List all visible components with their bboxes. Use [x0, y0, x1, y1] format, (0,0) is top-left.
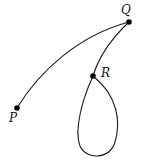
label-r: R [101, 67, 110, 79]
point-q [126, 19, 132, 25]
curve-p-to-q [17, 22, 129, 108]
diagram-svg [0, 0, 142, 163]
label-q: Q [121, 4, 131, 16]
label-p: P [9, 112, 17, 124]
curve-q-to-r [93, 22, 129, 76]
point-p [14, 105, 20, 111]
curve-diagram: P Q R [0, 0, 142, 163]
loop-at-r [78, 76, 118, 156]
point-r [90, 73, 96, 79]
